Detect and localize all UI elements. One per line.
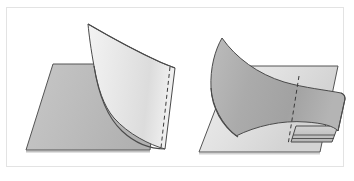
fold-lip-body — [291, 126, 338, 142]
surface-fold-diagram — [0, 0, 354, 181]
base-shadow-left — [26, 150, 150, 153]
fold-lip-right — [291, 126, 338, 142]
figure-root — [0, 0, 354, 181]
base-shadow-right — [199, 152, 320, 155]
